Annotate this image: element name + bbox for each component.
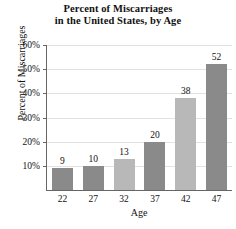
- y-axis-tick-label: 50%: [6, 64, 40, 74]
- x-axis-tick-label: 22: [47, 194, 78, 204]
- bar-value-label: 38: [170, 86, 201, 97]
- bar-slot: 20: [140, 45, 171, 190]
- x-axis-tick-label: 32: [109, 194, 140, 204]
- y-axis-tick-label: 30%: [6, 113, 40, 123]
- bar-slot: 38: [170, 45, 201, 190]
- bar-value-label: 20: [140, 130, 171, 141]
- x-axis-tick-label: 37: [140, 194, 171, 204]
- bar-value-label: 9: [47, 156, 78, 167]
- chart-title-line-1: Percent of Miscarriages: [0, 3, 236, 15]
- bar[interactable]: [144, 142, 165, 190]
- y-axis-tick-label: 10%: [6, 161, 40, 171]
- bar[interactable]: [114, 159, 135, 190]
- bar-slot: 13: [109, 45, 140, 190]
- bar-slot: 10: [78, 45, 109, 190]
- x-axis-line: [46, 190, 232, 191]
- plot-area: 10%20%30%40%50%60% 91013203852 222732374…: [46, 45, 232, 190]
- bar-series: 91013203852: [47, 45, 232, 190]
- bar-value-label: 10: [78, 154, 109, 165]
- chart-title: Percent of Miscarriages in the United St…: [0, 3, 236, 27]
- bar[interactable]: [206, 64, 227, 190]
- x-axis-tick-label: 47: [201, 194, 232, 204]
- bar-value-label: 13: [109, 147, 140, 158]
- bar-slot: 9: [47, 45, 78, 190]
- bar[interactable]: [52, 168, 73, 190]
- y-axis-tick-label: 20%: [6, 137, 40, 147]
- bar-value-label: 52: [201, 52, 232, 63]
- x-axis-title: Age: [46, 207, 232, 218]
- y-axis-tick-label: 40%: [6, 88, 40, 98]
- y-axis-tick-label: 60%: [6, 40, 40, 50]
- x-axis-tick-label: 42: [170, 194, 201, 204]
- bar[interactable]: [175, 98, 196, 190]
- bar-slot: 52: [201, 45, 232, 190]
- chart-title-line-2: in the United States, by Age: [0, 15, 236, 27]
- bar[interactable]: [83, 166, 104, 190]
- chart-figure: Percent of Miscarriages in the United St…: [0, 0, 236, 229]
- x-axis-tick-label: 27: [78, 194, 109, 204]
